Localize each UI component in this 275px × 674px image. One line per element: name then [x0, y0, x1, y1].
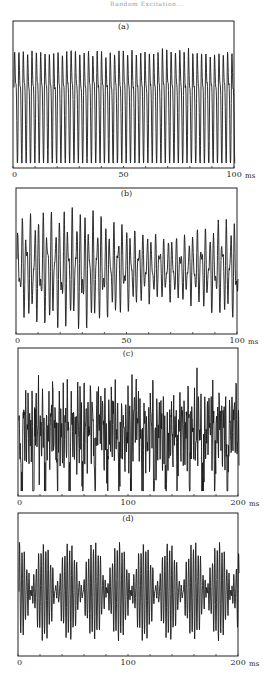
x-tick-label: 200: [231, 659, 246, 667]
x-tick-label: 0: [17, 659, 22, 667]
x-axis-unit: ms: [249, 660, 259, 668]
x-tick-label: 100: [121, 659, 136, 667]
panel-label: (d): [122, 515, 133, 523]
waveform-line: [19, 542, 239, 641]
plot-area: [0, 0, 275, 674]
